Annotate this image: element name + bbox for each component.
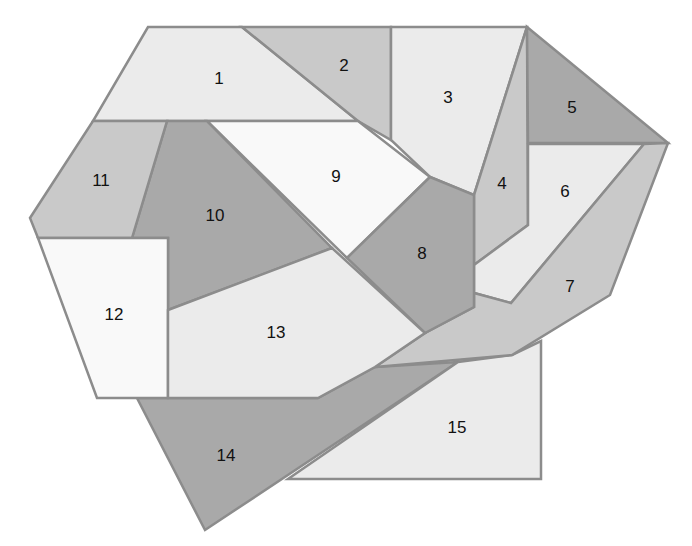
piece-label: 4 (497, 174, 506, 193)
piece-label: 3 (443, 88, 452, 107)
piece-label: 11 (92, 171, 110, 190)
piece-label: 5 (567, 98, 576, 117)
piece-label: 1 (214, 69, 223, 88)
dissection-diagram: 141512345679810111213 (0, 0, 692, 546)
piece-label: 15 (448, 418, 467, 437)
piece-5 (527, 27, 668, 143)
piece-label: 12 (105, 305, 124, 324)
piece-label: 9 (331, 167, 340, 186)
piece-label: 2 (339, 56, 348, 75)
piece-shape (527, 27, 668, 143)
piece-label: 13 (267, 323, 286, 342)
piece-label: 8 (417, 244, 426, 263)
piece-label: 7 (565, 277, 574, 296)
piece-12 (38, 238, 168, 398)
piece-label: 10 (206, 206, 225, 225)
piece-label: 14 (217, 446, 236, 465)
piece-shape (38, 238, 168, 398)
piece-label: 6 (560, 182, 569, 201)
diagram-canvas: 141512345679810111213 (0, 0, 692, 546)
